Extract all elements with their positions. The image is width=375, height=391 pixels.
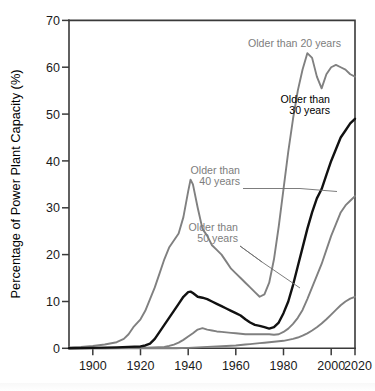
y-axis-title: Percentage of Power Plant Capacity (%)	[8, 69, 23, 298]
x-tick-label-2020: 2020	[344, 359, 372, 373]
label-older-40-years-line2: 40 years	[199, 175, 240, 187]
y-tick-label-10: 10	[46, 295, 60, 309]
y-tick-label-60: 60	[46, 61, 60, 75]
y-tick-marks	[62, 20, 69, 348]
y-tick-label-0: 0	[53, 342, 60, 356]
x-tick-label-2000: 2000	[317, 359, 345, 373]
series-path-older-40	[69, 196, 355, 348]
y-tick-label-20: 20	[46, 248, 60, 262]
x-tick-label-1960: 1960	[222, 359, 250, 373]
chart-figure: Percentage of Power Plant Capacity (%) 7…	[0, 0, 375, 391]
annotation-leader-lines	[240, 189, 337, 289]
y-tick-label-30: 30	[46, 201, 60, 215]
power-plant-capacity-line-chart: Percentage of Power Plant Capacity (%) 7…	[0, 0, 375, 391]
x-tick-label-1940: 1940	[174, 359, 202, 373]
x-tick-label-1980: 1980	[270, 359, 298, 373]
x-tick-label-1920: 1920	[127, 359, 155, 373]
y-tick-label-70: 70	[46, 14, 60, 28]
label-older-30-years-line2: 30 years	[289, 104, 330, 116]
label-older-50-years-line2: 50 years	[197, 232, 238, 244]
page-bottom-edge-artifact	[0, 383, 375, 391]
y-tick-label-40: 40	[46, 155, 60, 169]
x-tick-label-1900: 1900	[79, 359, 107, 373]
y-tick-label-50: 50	[46, 108, 60, 122]
series-path-older-50	[69, 297, 355, 349]
label-older-20-years: Older than 20 years	[248, 37, 341, 49]
x-tick-marks	[93, 348, 355, 355]
